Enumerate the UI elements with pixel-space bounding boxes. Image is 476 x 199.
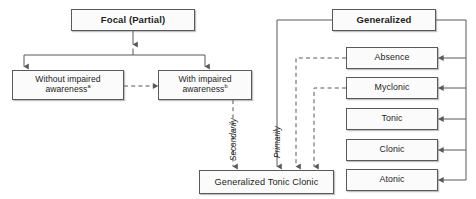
node-generalized-tonic-clonic-label: Generalized Tonic Clonic bbox=[215, 177, 319, 187]
footnote-marker-a: a bbox=[87, 83, 90, 89]
node-without-impaired-awareness-label: Without impaired awarenessa bbox=[13, 75, 123, 94]
edge-generalized-bus bbox=[436, 20, 466, 180]
node-subtype-tonic[interactable]: Tonic bbox=[346, 108, 438, 130]
footnote-marker-b: b bbox=[224, 83, 227, 89]
node-subtype-clonic[interactable]: Clonic bbox=[346, 139, 438, 161]
edge-primarily bbox=[277, 20, 332, 167]
edge-label-secondarily: Secondarily bbox=[229, 118, 238, 161]
edge-label-primarily: Primarily bbox=[273, 126, 282, 158]
node-generalized-label: Generalized bbox=[357, 15, 412, 26]
edge-focal-to-without bbox=[24, 49, 133, 67]
node-subtype-clonic-label: Clonic bbox=[379, 145, 404, 155]
node-with-impaired-awareness-label: With impaired awarenessb bbox=[159, 75, 251, 94]
node-subtype-tonic-label: Tonic bbox=[381, 114, 402, 124]
node-subtype-myclonic-label: Myclonic bbox=[374, 83, 409, 93]
node-subtype-atonic-label: Atonic bbox=[379, 175, 404, 185]
node-subtype-absence[interactable]: Absence bbox=[346, 47, 438, 69]
edge-absence-to-outcome bbox=[296, 58, 346, 167]
node-without-impaired-awareness[interactable]: Without impaired awarenessa bbox=[12, 70, 124, 100]
seizure-classification-diagram: Focal (Partial) Generalized Without impa… bbox=[0, 0, 476, 199]
node-subtype-absence-label: Absence bbox=[375, 53, 410, 63]
node-focal-partial[interactable]: Focal (Partial) bbox=[71, 9, 195, 31]
node-generalized[interactable]: Generalized bbox=[332, 9, 436, 31]
node-with-impaired-awareness[interactable]: With impaired awarenessb bbox=[158, 70, 252, 100]
node-subtype-atonic[interactable]: Atonic bbox=[346, 169, 438, 191]
node-generalized-tonic-clonic[interactable]: Generalized Tonic Clonic bbox=[199, 170, 334, 194]
edge-focal-to-with bbox=[133, 55, 205, 67]
node-focal-partial-label: Focal (Partial) bbox=[101, 15, 165, 26]
edge-myclonic-to-outcome bbox=[314, 88, 346, 167]
node-subtype-myclonic[interactable]: Myclonic bbox=[346, 77, 438, 99]
